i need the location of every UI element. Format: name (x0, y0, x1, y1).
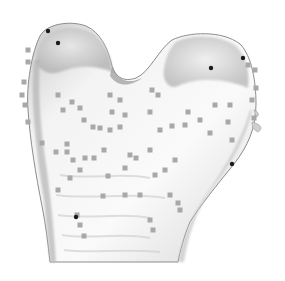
landmark-square (20, 93, 25, 98)
landmark-square (61, 108, 66, 113)
landmark-square (254, 86, 259, 91)
landmark-square (186, 110, 191, 115)
landmark-square (40, 141, 45, 146)
landmark-square (108, 93, 113, 98)
landmark-square (102, 148, 107, 153)
landmark-square (123, 193, 128, 198)
landmark-square (123, 166, 128, 171)
landmark-square (83, 156, 88, 161)
landmark-dot (56, 41, 60, 45)
landmark-square (26, 48, 31, 53)
landmark-square (82, 234, 87, 239)
landmark-square (150, 88, 155, 93)
landmark-square (98, 126, 103, 131)
landmark-square (178, 208, 183, 213)
landmark-square (78, 223, 83, 228)
landmark-dot (230, 162, 234, 166)
landmark-square (101, 194, 106, 199)
landmark-square (153, 173, 158, 178)
landmark-square (118, 125, 123, 130)
landmark-square (148, 218, 153, 223)
landmark-square (173, 158, 178, 163)
landmark-square (91, 125, 96, 130)
landmark-square (65, 142, 70, 147)
landmark-square (246, 63, 251, 68)
landmark-square (230, 138, 235, 143)
landmark-square (138, 193, 143, 198)
landmark-square (151, 228, 156, 233)
landmark-square (163, 168, 168, 173)
landmark-square (148, 110, 153, 115)
landmark-dot (241, 56, 245, 60)
landmark-square (26, 120, 31, 125)
landmark-square (110, 110, 115, 115)
landmark-square (70, 100, 75, 105)
landmark-square (158, 128, 163, 133)
landmark-square (250, 98, 255, 103)
landmark-square (82, 118, 87, 123)
landmark-square (252, 116, 257, 121)
landmark-square (68, 176, 73, 181)
landmark-square (23, 103, 28, 108)
landmark-square (253, 68, 258, 73)
landmark-square (183, 123, 188, 128)
landmark-square (92, 156, 97, 161)
landmark-square (170, 124, 175, 129)
landmark-square (106, 174, 111, 179)
landmark-square (176, 201, 181, 206)
landmark-square (208, 131, 213, 136)
landmark-square (26, 60, 31, 65)
landmark-square (128, 153, 133, 158)
landmark-square (198, 118, 203, 123)
landmark-square (118, 98, 123, 103)
landmark-square (108, 128, 113, 133)
landmark-square (134, 156, 139, 161)
landmark-dot (209, 66, 213, 70)
landmark-square (56, 93, 61, 98)
landmark-square (71, 158, 76, 163)
landmark-square (168, 193, 173, 198)
landmark-square (123, 113, 128, 118)
bone-render (0, 0, 285, 281)
landmark-dot (74, 215, 78, 219)
landmark-square (156, 93, 161, 98)
landmark-square (65, 150, 70, 155)
landmark-square (148, 148, 153, 153)
landmark-square (213, 103, 218, 108)
landmark-square (226, 120, 231, 125)
landmark-square (228, 103, 233, 108)
landmark-square (54, 150, 59, 155)
landmark-dot (46, 29, 50, 33)
landmark-square (78, 106, 83, 111)
landmark-square (78, 168, 83, 173)
landmark-square (22, 80, 27, 85)
landmark-square (56, 188, 61, 193)
